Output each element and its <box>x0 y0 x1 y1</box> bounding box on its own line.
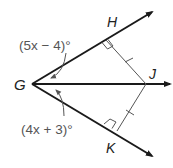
ray-GK <box>32 84 152 156</box>
segment-KJ <box>117 84 146 131</box>
label-K: K <box>106 140 116 156</box>
right-angle-mark-K <box>104 119 116 129</box>
label-G: G <box>14 76 26 93</box>
label-H: H <box>107 14 118 30</box>
label-J: J <box>148 66 157 82</box>
angle-label-upper: (5x − 4)° <box>19 38 71 53</box>
tick-mark-HJ <box>125 58 133 62</box>
angle-label-lower: (4x + 3)° <box>21 122 73 137</box>
angle-bisector-diagram: G H J K (5x − 4)° (4x + 3)° <box>0 0 173 168</box>
angle-arrow-lower <box>56 90 64 116</box>
